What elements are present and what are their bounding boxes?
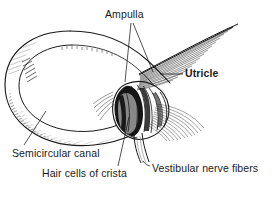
label-hair-cells-of-crista: Hair cells of crista	[42, 168, 127, 179]
vestibular-nerve-fiber-spray-upper	[137, 28, 232, 90]
leader-semicircular-canal	[24, 111, 46, 145]
nerve-fiber-tufts-left	[93, 92, 114, 120]
leader-ampulla-left	[125, 23, 131, 82]
canal-inner-stipple	[62, 46, 112, 56]
canal-upper-ridge	[70, 31, 170, 83]
label-utricle: Utricle	[185, 68, 218, 79]
label-semicircular-canal: Semicircular canal	[12, 148, 100, 159]
canal-left-bend-hatch	[22, 58, 37, 82]
label-ampulla: Ampulla	[105, 9, 144, 20]
anatomy-figure: Ampulla Utricle Semicircular canal Hair …	[0, 0, 272, 199]
leader-ampulla-right	[133, 23, 153, 72]
label-vestibular-nerve-fibers: Vestibular nerve fibers	[152, 163, 258, 174]
